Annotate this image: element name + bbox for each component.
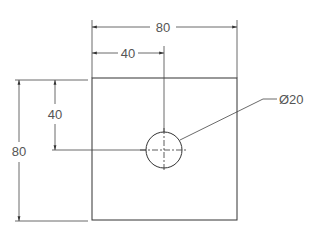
svg-text:40: 40 — [121, 46, 135, 61]
svg-text:80: 80 — [12, 144, 26, 159]
svg-text:40: 40 — [48, 107, 62, 122]
dimension-hole-x: 40 — [92, 46, 164, 61]
dimension-overall-width: 80 — [92, 20, 237, 35]
svg-text:Ø20: Ø20 — [279, 92, 304, 107]
svg-text:80: 80 — [156, 20, 170, 35]
drawing-canvas: 80 40 40 80 Ø20 — [0, 0, 314, 237]
dimension-overall-height: 80 — [12, 80, 26, 221]
part-outline — [92, 78, 237, 220]
dimension-hole-y: 40 — [48, 80, 62, 150]
dimension-hole-diameter: Ø20 — [180, 92, 304, 140]
